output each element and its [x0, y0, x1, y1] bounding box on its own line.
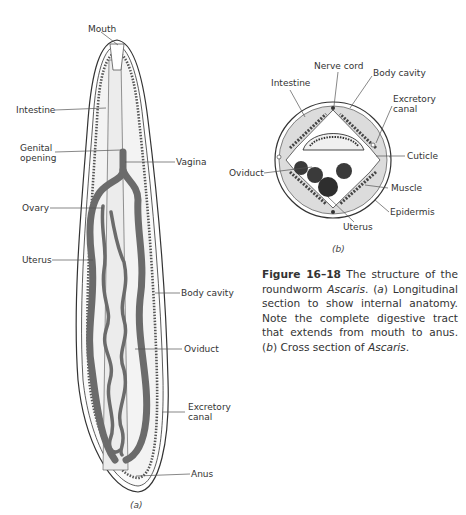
- label-intestine-b: Intestine: [271, 78, 310, 88]
- label-muscle: Muscle: [391, 183, 422, 193]
- label-anus: Anus: [191, 469, 213, 479]
- label-genital-opening-1: Genital: [20, 143, 52, 153]
- figure-number: Figure 16–18: [262, 268, 341, 280]
- label-vagina: Vagina: [176, 157, 206, 167]
- label-genital-opening-2: opening: [20, 153, 56, 163]
- sublabel-b: (b): [332, 244, 345, 254]
- cross-section-diagram: [275, 102, 391, 218]
- label-excretory-canal-2: canal: [188, 412, 212, 422]
- figure-caption: Figure 16–18 The structure of the roundw…: [262, 267, 458, 355]
- label-epidermis: Epidermis: [390, 207, 435, 217]
- label-nerve-cord: Nerve cord: [314, 61, 363, 71]
- label-excretory-canal-b-2: canal: [393, 104, 417, 114]
- label-oviduct: Oviduct: [184, 344, 219, 354]
- label-mouth: Mouth: [88, 24, 116, 34]
- label-excretory-canal-b-1: Excretory: [393, 94, 436, 104]
- label-cuticle: Cuticle: [407, 151, 438, 161]
- label-uterus-b: Uterus: [343, 222, 373, 232]
- label-oviduct-b: Oviduct: [229, 168, 264, 178]
- label-intestine: Intestine: [16, 105, 55, 115]
- label-ovary: Ovary: [22, 203, 49, 213]
- label-body-cavity: Body cavity: [181, 288, 234, 298]
- label-excretory-canal-1: Excretory: [188, 402, 231, 412]
- label-body-cavity-b: Body cavity: [373, 68, 426, 78]
- sublabel-a: (a): [130, 500, 143, 510]
- label-uterus: Uterus: [22, 255, 52, 265]
